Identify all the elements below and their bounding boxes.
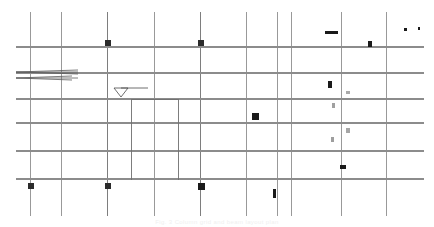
- marker-column-marker-M2[interactable]: [198, 40, 204, 46]
- marker-detail-tag-M16[interactable]: [273, 189, 276, 198]
- marker-column-marker-M15[interactable]: [198, 183, 205, 190]
- marker-detail-tag-M5[interactable]: [418, 27, 420, 30]
- marker-faint-tag-M11[interactable]: [331, 137, 334, 142]
- cad-drawing-viewport[interactable]: Fig. 3 Column grid and beam layout plan: [0, 0, 434, 227]
- marker-detail-tag-M6[interactable]: [328, 81, 332, 88]
- marker-detail-tag-M3[interactable]: [368, 41, 372, 47]
- marker-section-bar-M17[interactable]: [325, 31, 338, 34]
- marker-detail-tag-M4[interactable]: [404, 28, 407, 31]
- marker-column-marker-M9[interactable]: [252, 113, 259, 120]
- marker-detail-tag-M12[interactable]: [340, 165, 346, 169]
- marker-column-marker-M1[interactable]: [105, 40, 111, 46]
- drawing-caption: Fig. 3 Column grid and beam layout plan: [0, 218, 434, 226]
- cad-canvas[interactable]: [0, 0, 434, 227]
- marker-column-marker-M13[interactable]: [28, 183, 34, 189]
- marker-column-marker-M14[interactable]: [105, 183, 111, 189]
- marker-faint-tag-M7[interactable]: [346, 91, 350, 94]
- marker-faint-tag-M10[interactable]: [346, 128, 350, 133]
- drawing-background: [0, 0, 434, 227]
- marker-faint-tag-M8[interactable]: [332, 103, 335, 108]
